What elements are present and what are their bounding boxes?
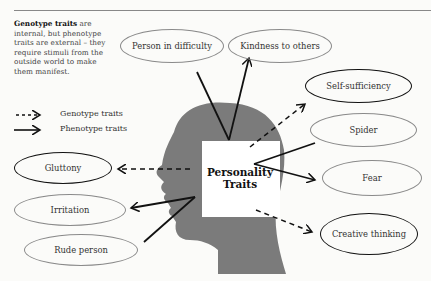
node-label: Spider <box>349 125 377 135</box>
center-label-line1: Personality <box>190 166 290 178</box>
legend-phenotype-label: Phenotype traits <box>60 124 127 133</box>
node-kindness-to-others: Kindness to others <box>228 29 332 63</box>
node-label: Self-sufficiency <box>326 81 390 91</box>
node-gluttony: Gluttony <box>14 152 112 184</box>
node-rude-person: Rude person <box>24 234 138 266</box>
node-creative-thinking: Creative thinking <box>320 213 418 255</box>
node-fear: Fear <box>322 160 422 196</box>
node-label: Gluttony <box>45 163 82 173</box>
node-irritation: Irritation <box>14 194 126 226</box>
node-person-in-difficulty: Person in difficulty <box>120 29 224 63</box>
node-label: Irritation <box>51 205 90 215</box>
node-label: Fear <box>362 173 381 183</box>
node-label: Person in difficulty <box>132 41 212 51</box>
node-spider: Spider <box>310 113 417 147</box>
node-label: Rude person <box>54 245 108 255</box>
center-label: Personality Traits <box>190 166 290 190</box>
node-label: Creative thinking <box>332 229 406 239</box>
node-self-sufficiency: Self-sufficiency <box>305 69 412 103</box>
legend-genotype-label: Genotype traits <box>60 109 123 118</box>
center-label-line2: Traits <box>190 178 290 190</box>
node-label: Kindness to others <box>240 41 319 51</box>
